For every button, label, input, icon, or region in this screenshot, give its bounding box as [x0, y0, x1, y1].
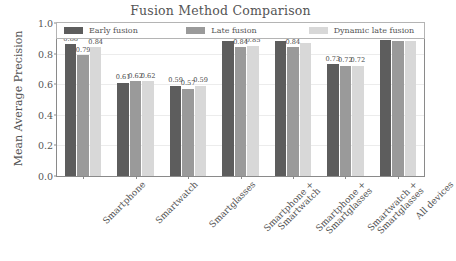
x-tick-label: Smartphone + Smartglasses — [314, 180, 374, 240]
bar — [195, 86, 207, 176]
plot-area: 0.860.790.840.610.620.620.590.570.590.88… — [56, 22, 425, 177]
legend-item: Early fusion — [57, 26, 179, 35]
legend-label: Dynamic late fusion — [334, 26, 415, 35]
y-tick-label: 0.6 — [38, 79, 53, 90]
bar — [142, 81, 154, 176]
bar — [352, 66, 364, 176]
bar — [340, 66, 352, 176]
bar-group: 0.880.840.85 — [214, 23, 266, 176]
bar — [235, 47, 247, 176]
bar — [117, 83, 129, 176]
x-tick-label: Smartwatch — [154, 180, 200, 226]
y-tick-mark — [54, 114, 57, 115]
y-tick-label: 0.4 — [38, 109, 53, 120]
bar — [247, 46, 259, 176]
bar-group: 0.880.840.87 — [267, 23, 319, 176]
bar-group: 0.890.880.88 — [372, 23, 424, 176]
y-tick-label: 0.8 — [38, 48, 53, 59]
legend-label: Early fusion — [89, 26, 138, 35]
legend-swatch — [186, 27, 205, 34]
bar — [287, 47, 299, 176]
bar-value-label: 0.59 — [193, 76, 208, 84]
bar — [222, 41, 234, 176]
bar — [65, 44, 77, 176]
bar — [182, 89, 194, 176]
bar-group: 0.860.790.84 — [57, 23, 109, 176]
x-tick-mark — [241, 176, 242, 179]
legend-item: Dynamic late fusion — [302, 26, 424, 35]
x-tick-label: Smartphone — [102, 180, 148, 226]
bar — [405, 41, 417, 176]
bar-value-label: 0.72 — [351, 56, 366, 64]
bar-value-label: 0.62 — [141, 72, 156, 80]
legend-swatch — [309, 27, 328, 34]
x-tick-mark — [398, 176, 399, 179]
bar — [90, 47, 102, 176]
y-tick-mark — [54, 84, 57, 85]
x-tick-label: All devices — [414, 180, 455, 221]
chart-legend: Early fusionLate fusionDynamic late fusi… — [56, 22, 425, 39]
y-tick-mark — [54, 53, 57, 54]
bar-group: 0.590.570.59 — [162, 23, 214, 176]
bar — [300, 43, 312, 176]
x-tick-mark — [136, 176, 137, 179]
legend-swatch — [64, 27, 83, 34]
bar-value-label: 0.84 — [88, 38, 103, 46]
y-tick-label: 1.0 — [38, 18, 53, 29]
x-tick-mark — [345, 176, 346, 179]
bar-group: 0.610.620.62 — [109, 23, 161, 176]
y-axis-label: Mean Average Precision — [12, 24, 25, 174]
x-tick-mark — [188, 176, 189, 179]
chart-title: Fusion Method Comparison — [0, 3, 441, 18]
x-tick-label: Smartphone + Smartwatch — [262, 180, 322, 240]
bar — [327, 64, 339, 176]
x-tick-mark — [293, 176, 294, 179]
bar — [275, 41, 287, 176]
y-tick-label: 0.0 — [38, 171, 53, 182]
bar — [392, 41, 404, 176]
x-tick-mark — [83, 176, 84, 179]
legend-label: Late fusion — [211, 26, 256, 35]
bar — [77, 55, 89, 176]
y-tick-mark — [54, 176, 57, 177]
bar — [380, 40, 392, 176]
legend-item: Late fusion — [179, 26, 301, 35]
bar-group: 0.730.720.72 — [319, 23, 371, 176]
y-tick-mark — [54, 145, 57, 146]
bar-value-label: 0.79 — [76, 46, 91, 54]
bar-series-container: 0.860.790.840.610.620.620.590.570.590.88… — [57, 23, 424, 176]
y-tick-label: 0.2 — [38, 140, 53, 151]
bar — [130, 81, 142, 176]
bar — [170, 86, 182, 176]
x-tick-label: Smartglasses — [208, 180, 258, 230]
